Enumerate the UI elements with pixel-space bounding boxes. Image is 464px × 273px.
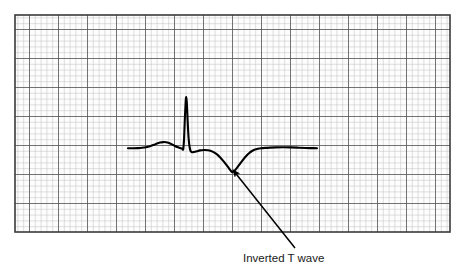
graph-paper-grid — [15, 15, 450, 232]
inverted-t-wave-label: Inverted T wave — [243, 252, 324, 264]
ecg-graph-paper — [15, 15, 450, 232]
ecg-figure: Inverted T wave — [0, 0, 464, 273]
ecg-diagram: Inverted T wave — [0, 0, 464, 273]
